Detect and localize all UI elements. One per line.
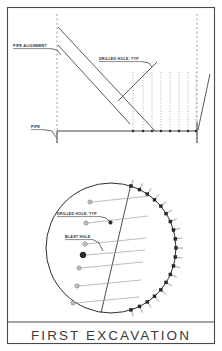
hole-leader-line	[88, 216, 148, 223]
arc-perimeter-hole-marker	[138, 305, 141, 308]
annotation-pipe-label: PIPE	[31, 125, 41, 129]
annotation-drilled-hole-typ-label: DRILLED HOLE, TYP	[99, 57, 139, 61]
arc-perimeter-hole-marker	[175, 247, 178, 250]
drilled-hole-collar-dot	[142, 130, 144, 132]
annotation-pipe: PIPE	[31, 125, 56, 137]
arc-perimeter-hole-marker	[130, 185, 133, 188]
elevation-section: PIPE ALIGNMENT DRILLED HOLE, TYP PIPE	[13, 14, 210, 143]
arc-perimeter-hole-marker	[172, 229, 175, 232]
hole-leader-line	[79, 280, 141, 286]
arc-perimeter-hole-marker	[169, 273, 172, 276]
blast-hole-marker	[80, 252, 86, 258]
annotation-leader-line	[51, 49, 61, 55]
arc-perimeter-hole-marker	[138, 188, 141, 191]
excavation-circle-outline	[46, 183, 176, 313]
drilled-hole-collar-dot	[178, 130, 180, 132]
annotation-blast-hole-label: BLAST HOLE	[65, 235, 91, 239]
annotation-leader-line	[142, 62, 152, 67]
drawing-sheet: PIPE ALIGNMENT DRILLED HOLE, TYP PIPE	[0, 0, 222, 351]
arc-perimeter-hole-marker	[165, 281, 168, 284]
drilled-hole-center-dot	[85, 222, 86, 223]
arc-perimeter-hole-marker	[169, 220, 172, 223]
circular-section: DRILLED HOLE, TYP BLAST HOLE	[46, 180, 183, 317]
arc-perimeter-hole-marker	[130, 308, 133, 311]
drilled-hole-collar-dot	[132, 130, 134, 132]
arc-marker-group	[130, 180, 183, 317]
drilled-hole-center-dot	[76, 285, 77, 286]
arc-perimeter-hole-marker	[165, 212, 168, 215]
annotation-leader-endpoint	[109, 221, 112, 224]
drilled-hole-leader-diagonal	[118, 62, 157, 101]
hole-leader-line	[92, 196, 150, 202]
arc-perimeter-hole-marker	[146, 300, 149, 303]
arc-perimeter-hole-marker	[159, 288, 162, 291]
drilled-hole-group	[132, 72, 197, 132]
arc-perimeter-hole-marker	[159, 205, 162, 208]
arc-perimeter-hole-marker	[146, 193, 149, 196]
drilled-hole-center-dot	[72, 302, 73, 303]
drilled-hole-collar-dot	[151, 130, 153, 132]
drilled-hole-collar-dot	[195, 130, 197, 132]
arc-perimeter-hole-marker	[172, 264, 175, 267]
page-title: FIRST EXCAVATION	[31, 328, 191, 343]
arc-perimeter-hole-marker	[174, 256, 177, 259]
annotation-pipe-alignment-label: PIPE ALIGNMENT	[13, 44, 47, 48]
drilled-hole-collar-dot	[169, 130, 171, 132]
drilled-hole-center-dot	[89, 201, 90, 202]
excavation-face-chord	[101, 184, 131, 313]
drilled-hole-collar-dot	[160, 130, 162, 132]
annotation-leader-line	[43, 130, 56, 137]
annotation-drilled-hole-typ: DRILLED HOLE, TYP	[99, 57, 152, 67]
drilled-hole-collar-dot	[187, 130, 189, 132]
hole-leader-line	[75, 297, 139, 303]
arc-perimeter-hole-marker	[174, 237, 177, 240]
annotation-pipe-alignment: PIPE ALIGNMENT	[13, 44, 61, 55]
annotation-section-drilled-hole-label: DRILLED HOLE, TYP	[57, 212, 97, 216]
arc-perimeter-hole-marker	[153, 198, 156, 201]
annotation-leader-line	[93, 240, 103, 251]
drilled-hole-center-dot	[78, 267, 79, 268]
arc-perimeter-hole-marker	[153, 295, 156, 298]
drilled-hole-center-dot	[84, 243, 86, 245]
right-edge-diagonal	[198, 74, 210, 130]
